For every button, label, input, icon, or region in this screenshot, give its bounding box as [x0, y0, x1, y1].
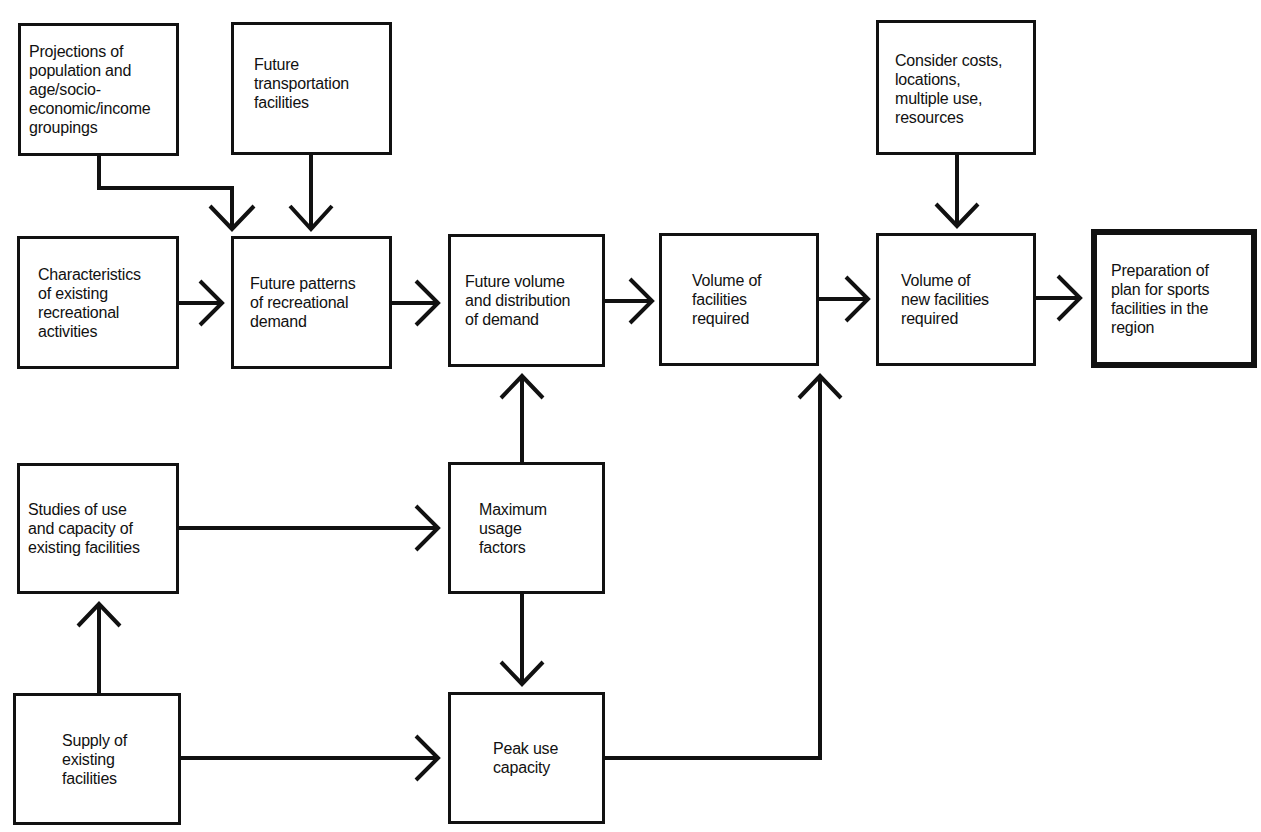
node-max-usage: Maximum usage factors: [448, 462, 605, 594]
edge-peak-to-facilities: [604, 376, 820, 758]
node-label: Future transportation facilities: [234, 25, 355, 112]
node-label: Volume of new facilities required: [879, 271, 995, 328]
node-label: Maximum usage factors: [451, 500, 553, 557]
node-characteristics: Characteristics of existing recreational…: [17, 236, 179, 369]
node-consider-costs: Consider costs, locations, multiple use,…: [876, 20, 1036, 155]
node-label: Supply of existing facilities: [16, 731, 133, 788]
node-label: Volume of facilities required: [662, 271, 767, 328]
node-studies: Studies of use and capacity of existing …: [17, 463, 179, 594]
node-transport: Future transportation facilities: [231, 22, 392, 155]
node-projections: Projections of population and age/socio-…: [18, 23, 179, 156]
node-future-patterns: Future patterns of recreational demand: [231, 236, 392, 369]
node-volume-facilities: Volume of facilities required: [659, 233, 819, 366]
node-volume-new: Volume of new facilities required: [876, 233, 1036, 366]
connector-layer: [0, 0, 1261, 832]
node-label: Characteristics of existing recreational…: [20, 265, 147, 341]
node-label: Studies of use and capacity of existing …: [20, 500, 146, 557]
node-peak-use: Peak use capacity: [448, 692, 605, 824]
node-supply: Supply of existing facilities: [13, 693, 181, 825]
node-label: Projections of population and age/socio-…: [21, 42, 157, 137]
node-label: Peak use capacity: [451, 739, 564, 777]
node-label: Consider costs, locations, multiple use,…: [879, 23, 1008, 127]
node-future-volume: Future volume and distribution of demand: [448, 234, 605, 367]
node-label: Preparation of plan for sports facilitie…: [1097, 261, 1215, 337]
node-preparation: Preparation of plan for sports facilitie…: [1091, 229, 1257, 368]
node-label: Future patterns of recreational demand: [234, 274, 362, 331]
node-label: Future volume and distribution of demand: [451, 272, 576, 329]
edge-projections-to-patterns: [99, 155, 232, 229]
